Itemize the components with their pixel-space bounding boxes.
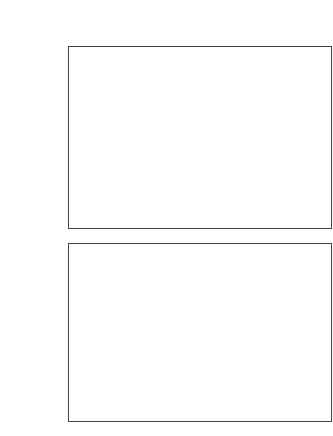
y-axis-culture xyxy=(0,46,68,229)
chart-panel-handheld xyxy=(68,243,332,422)
bar-group-culture xyxy=(68,46,332,229)
x-axis-tick-labels xyxy=(68,24,332,36)
bar-group-handheld xyxy=(68,243,332,422)
figure-container xyxy=(0,0,333,436)
y-axis-handheld xyxy=(0,243,68,422)
chart-panel-culture xyxy=(68,46,332,229)
